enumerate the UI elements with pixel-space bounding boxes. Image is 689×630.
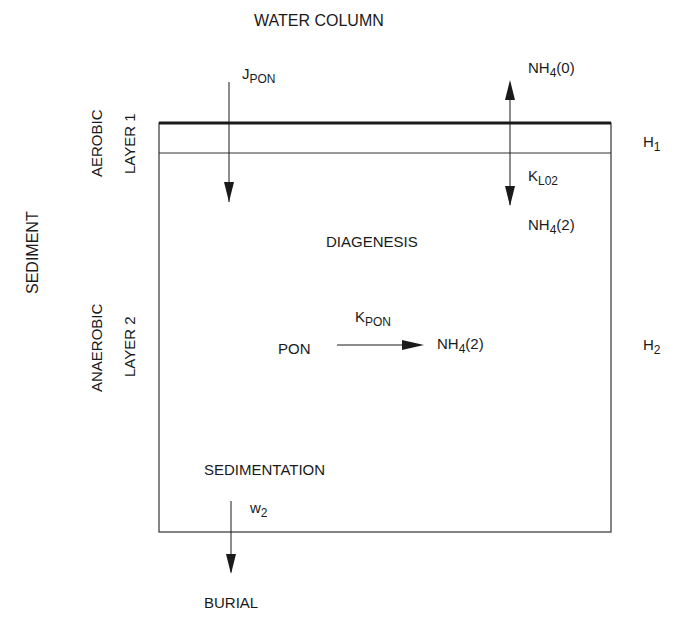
layer2-label: LAYER 2 [122,316,137,377]
nh4-up-arrowhead [505,80,515,100]
reaction-arrowhead [402,340,424,350]
anaerobic-label: ANAEROBIC [89,304,104,392]
aerobic-label: AEROBIC [89,109,104,177]
burial-label: BURIAL [204,595,258,610]
nh4-layer2-label: NH4(2) [528,217,575,236]
nh4-surface-label: NH4(0) [528,60,575,79]
flux-jpon-label: JPON [242,66,276,85]
pon-label: PON [278,341,311,356]
flux-arrowhead [224,182,234,202]
water-column-label: WATER COLUMN [254,13,384,29]
diagenesis-label: DIAGENESIS [326,234,418,249]
layer1-label: LAYER 1 [122,113,137,174]
kl02-label: KL02 [528,168,558,187]
nh4-product-label: NH4(2) [437,336,484,355]
sedimentation-label: SEDIMENTATION [204,462,325,477]
h1-label: H1 [643,134,661,153]
h2-label: H2 [643,337,661,356]
nh4-down-arrowhead [505,186,515,206]
kpon-label: KPON [355,309,391,328]
w2-label: w2 [250,500,268,519]
sediment-label: SEDIMENT [25,211,41,294]
burial-arrowhead [226,554,236,574]
